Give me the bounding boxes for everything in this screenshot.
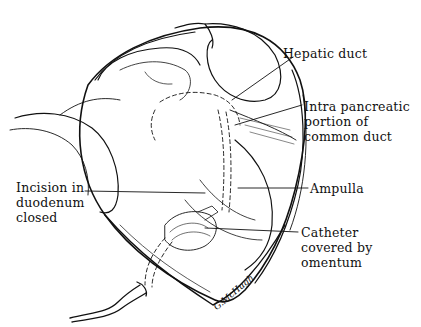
label-intrapancreatic-common-duct: Intra pancreatic portion of common duct	[304, 99, 410, 144]
label-incision-in-duodenum: Incision in duodenum closed	[16, 180, 85, 225]
label-catheter-omentum: Catheter covered by omentum	[301, 225, 372, 270]
label-ampulla: Ampulla	[310, 181, 364, 196]
label-hepatic-duct: Hepatic duct	[283, 46, 367, 61]
